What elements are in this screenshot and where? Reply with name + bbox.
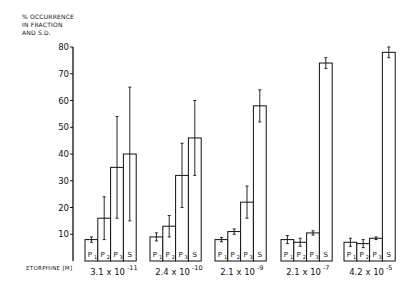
bar-label-subscript: 2 — [366, 254, 369, 260]
bar-label: S — [258, 251, 263, 259]
y-tick-label: 60 — [58, 96, 69, 106]
x-category-label: 4.2 x 10 — [349, 267, 384, 277]
y-tick-label: 30 — [58, 176, 69, 186]
x-category-label: 2.4 x 10 — [155, 267, 190, 277]
bar-label: P — [231, 251, 235, 259]
y-tick-label: 10 — [58, 229, 69, 239]
bar-label-subscript: 3 — [185, 254, 188, 260]
bar-label-subscript: 1 — [353, 254, 356, 260]
bar-s — [382, 52, 395, 261]
bar-label: P — [113, 251, 117, 259]
x-category-exponent: -10 — [192, 264, 203, 272]
bar-label-subscript: 2 — [303, 254, 306, 260]
bar-label: P — [347, 251, 351, 259]
bar-label: P — [360, 251, 364, 259]
bar-label: S — [128, 251, 133, 259]
bar-label: P — [284, 251, 288, 259]
bar-label: S — [193, 251, 198, 259]
y-tick-label: 40 — [58, 149, 69, 159]
x-category-exponent: -7 — [323, 264, 329, 272]
bar-label: P — [88, 251, 92, 259]
bar-label-subscript: 1 — [159, 254, 162, 260]
bar-label-subscript: 3 — [250, 254, 253, 260]
bar-label-subscript: 3 — [379, 254, 382, 260]
bar-label-subscript: 2 — [107, 254, 110, 260]
bar-label-subscript: 1 — [290, 254, 293, 260]
x-category-exponent: -9 — [257, 264, 263, 272]
bar-label: P — [101, 251, 105, 259]
x-category-exponent: -5 — [386, 264, 392, 272]
bar-label-subscript: 1 — [94, 254, 97, 260]
bar-label-subscript: 2 — [237, 254, 240, 260]
bar-s — [319, 63, 332, 261]
y-tick-label: 80 — [58, 42, 69, 52]
x-category-label: 2.1 x 10 — [220, 267, 255, 277]
bar-label-subscript: 3 — [120, 254, 123, 260]
bar-label-subscript: 2 — [172, 254, 175, 260]
bar-label: P — [243, 251, 247, 259]
bar-label: S — [387, 251, 392, 259]
bar-label: P — [166, 251, 170, 259]
bar-label: P — [297, 251, 301, 259]
y-tick-label: 50 — [58, 122, 69, 132]
bar-chart: 1020304050607080P1P2P3S3.1 x 10-11P1P2P3… — [0, 0, 419, 287]
bar-label: P — [372, 251, 376, 259]
bar-label: S — [324, 251, 329, 259]
bar-label: P — [309, 251, 313, 259]
bar-label-subscript: 1 — [224, 254, 227, 260]
y-tick-label: 20 — [58, 203, 69, 213]
x-category-label: 2.1 x 10 — [286, 267, 321, 277]
bar-label: P — [218, 251, 222, 259]
x-category-label: 3.1 x 10 — [90, 267, 125, 277]
y-tick-label: 70 — [58, 69, 69, 79]
bar-label: P — [178, 251, 182, 259]
x-category-exponent: -11 — [127, 264, 138, 272]
bar-label: P — [153, 251, 157, 259]
bar-s — [253, 106, 266, 261]
bar-label-subscript: 3 — [316, 254, 319, 260]
